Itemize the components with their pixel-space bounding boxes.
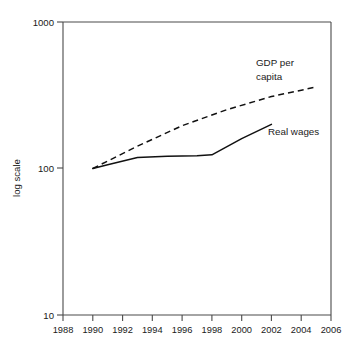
line-chart: 1000 100 10 log scale 1988 1990 1992 199… xyxy=(0,0,350,349)
chart-container: 1000 100 10 log scale 1988 1990 1992 199… xyxy=(0,0,350,349)
x-tick-label-2004: 2004 xyxy=(291,325,312,335)
x-tick-label-1996: 1996 xyxy=(172,325,193,335)
y-axis-title: log scale xyxy=(11,159,22,197)
x-tick-labels: 1988 1990 1992 1994 1996 1998 2000 2002 … xyxy=(53,325,342,335)
annotation-real-wages: Real wages xyxy=(268,126,319,137)
x-tick-label-1990: 1990 xyxy=(82,325,103,335)
y-tick-label-10: 10 xyxy=(43,310,54,321)
x-tick-label-2000: 2000 xyxy=(231,325,252,335)
y-tick-label-1000: 1000 xyxy=(33,17,54,28)
x-tick-label-2006: 2006 xyxy=(321,325,342,335)
y-tick-labels: 1000 100 10 xyxy=(33,17,54,321)
annotation-gdp-line2: capita xyxy=(256,71,283,82)
x-tick-marks xyxy=(63,315,331,321)
x-tick-label-1998: 1998 xyxy=(202,325,223,335)
x-tick-label-1994: 1994 xyxy=(142,325,163,335)
x-tick-label-2002: 2002 xyxy=(261,325,282,335)
y-tick-marks xyxy=(57,22,63,315)
annotation-gdp-line1: GDP per xyxy=(256,57,295,68)
x-tick-label-1988: 1988 xyxy=(53,325,74,335)
annotation-gdp-per-capita: GDP per capita xyxy=(256,57,295,82)
x-tick-label-1992: 1992 xyxy=(112,325,133,335)
y-tick-label-100: 100 xyxy=(38,163,54,174)
series-line-real-wages xyxy=(93,124,272,168)
